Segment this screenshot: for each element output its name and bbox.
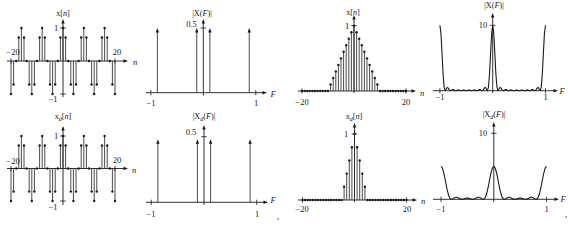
stem-marker [403, 199, 405, 201]
stem-marker [379, 199, 381, 201]
panel-x-n-periodic: x[n] 1 −1 −20 20 n [6, 9, 137, 105]
stem-marker [114, 200, 116, 202]
y-axis-arrowhead [492, 122, 495, 127]
stem-marker [324, 90, 326, 92]
x-axis-label: n [132, 165, 136, 175]
stem-marker [49, 83, 51, 85]
stem-marker [62, 27, 64, 29]
y-axis-arrowhead [353, 123, 356, 128]
stem-marker [379, 90, 381, 92]
stem-marker [54, 83, 56, 85]
stem-marker [31, 200, 33, 202]
stem-marker [320, 199, 322, 201]
stem-marker [400, 90, 402, 92]
stem-marker [345, 44, 347, 46]
y-axis-arrowhead [202, 125, 205, 130]
spectral-line-arrowhead [196, 139, 199, 144]
stem-marker [304, 199, 306, 201]
stem-marker [67, 167, 69, 169]
stem-marker [83, 27, 85, 29]
stem-marker [306, 90, 308, 92]
stem-marker [72, 93, 74, 95]
stem-marker [70, 190, 72, 192]
panel-Xd-F-line-spectrum: |Xd(F)| 0.5 −1 1 F [146, 112, 276, 219]
stem-marker [20, 135, 22, 137]
stem-marker [98, 60, 100, 62]
stem-marker [106, 144, 108, 146]
panel-title: xd[n] [55, 112, 72, 122]
stem-marker [12, 190, 14, 192]
ytick-label-min: −1 [48, 202, 57, 212]
stem-marker [93, 93, 95, 95]
y-axis-arrowhead [61, 19, 64, 24]
plot-area [433, 13, 558, 93]
title-close: ] [69, 112, 72, 121]
ytick-label-max: 1 [54, 23, 58, 33]
stem-marker [57, 167, 59, 169]
stem-marker [67, 60, 69, 62]
xtick-label-right: 20 [113, 155, 122, 165]
stem-marker [90, 83, 92, 85]
panel-title: |Xd(F)| [483, 110, 506, 120]
x-axis-arrowhead [412, 89, 417, 92]
stem-marker [10, 200, 12, 202]
stem-marker [103, 27, 105, 29]
panel-X-F-line-spectrum: |X(F)| 0.5 −1 1 F [146, 9, 276, 108]
stem-marker [364, 186, 366, 188]
stem-marker [322, 90, 324, 92]
stem-marker [359, 159, 361, 161]
x-axis-label: F [559, 194, 566, 204]
stem-marker [38, 36, 40, 38]
stem-marker [353, 133, 355, 135]
panel-title: x[n] [346, 8, 360, 17]
x-axis-arrowhead [555, 198, 560, 201]
stem-marker [384, 90, 386, 92]
stem-marker [387, 199, 389, 201]
stem-marker [348, 38, 350, 40]
stem-marker [109, 167, 111, 169]
ytick-label: 1 [345, 21, 349, 31]
stem-marker [340, 199, 342, 201]
stem-marker [18, 144, 20, 146]
panel-title: xd[n] [346, 112, 363, 122]
stem-marker [72, 200, 74, 202]
stem-marker [322, 199, 324, 201]
stem-marker [338, 199, 340, 201]
title-close: )| [501, 110, 506, 119]
stem-marker [330, 199, 332, 201]
y-axis-arrowhead [202, 19, 205, 24]
ytick-label: 0.5 [186, 127, 197, 137]
stem-marker [394, 90, 396, 92]
stem-marker [64, 36, 66, 38]
spectral-line-arrowhead [209, 139, 212, 144]
stem-marker [314, 90, 316, 92]
spectral-line-arrowhead [248, 28, 251, 33]
stem-marker [106, 36, 108, 38]
stem-marker [405, 199, 407, 201]
stem-marker [54, 190, 56, 192]
stem-marker [385, 199, 387, 201]
stem-marker [93, 200, 95, 202]
stem-marker [46, 167, 48, 169]
title-close: ] [360, 112, 363, 121]
plot-area [298, 123, 417, 203]
title-base: |X [192, 9, 200, 18]
stem-marker [23, 36, 25, 38]
stem-marker [83, 135, 85, 137]
spectral-line-arrowhead [156, 28, 159, 33]
xtick-label-right: 20 [402, 97, 411, 107]
stem-marker [46, 60, 48, 62]
stem-marker [33, 83, 35, 85]
stem-marker [381, 90, 383, 92]
stem-marker [80, 144, 82, 146]
stem-marker [307, 199, 309, 201]
stem-marker [348, 159, 350, 161]
stem-marker [25, 60, 27, 62]
stem-marker [335, 199, 337, 201]
signal-figure: x[n] 1 −1 −20 20 n |X(F)| 0.5 −1 1 F x[n… [0, 0, 568, 246]
plot-area [298, 15, 416, 94]
panel-title: |X(F)| [484, 1, 504, 10]
stem-marker [382, 199, 384, 201]
stem-marker [395, 199, 397, 201]
x-axis-label: n [420, 88, 424, 98]
